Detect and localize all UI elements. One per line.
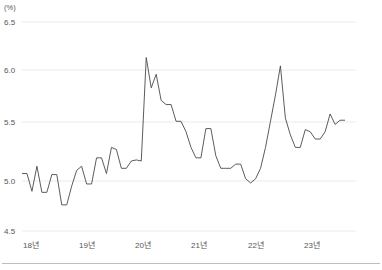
gridlines bbox=[22, 22, 356, 231]
plot-area bbox=[0, 0, 382, 270]
unemployment-rate-line-chart: (%) 6.5 6.0 5.5 5.0 4.5 18년 19년 20년 21년 … bbox=[0, 0, 382, 270]
series-line-unemployment-rate bbox=[22, 58, 345, 205]
footer-divider bbox=[2, 263, 380, 264]
